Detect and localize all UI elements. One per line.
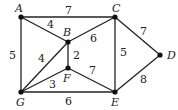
edge-weight-label: 3	[49, 78, 56, 91]
node-g	[18, 89, 23, 94]
node-d	[157, 52, 162, 57]
node-c	[112, 14, 117, 19]
node-f	[65, 65, 70, 70]
node-label: C	[112, 2, 121, 15]
edge-bg	[21, 42, 68, 92]
edge-de	[115, 55, 160, 92]
node-a	[18, 14, 23, 19]
node-b	[65, 39, 70, 44]
node-label: A	[14, 2, 23, 15]
edge-weight-label: 4	[38, 52, 45, 65]
edge-ab	[21, 17, 68, 42]
edge-weight-label: 7	[65, 4, 72, 17]
node-label: B	[62, 26, 71, 39]
edge-weight-label: 7	[140, 25, 147, 38]
edge-weight-label: 4	[47, 18, 54, 31]
edge-weight-label: 2	[73, 49, 80, 62]
node-label: E	[110, 96, 119, 109]
edge-weight-label: 6	[65, 95, 72, 108]
node-label: D	[166, 49, 176, 62]
node-label: F	[62, 72, 71, 85]
node-e	[112, 89, 117, 94]
edge-fg	[21, 68, 68, 92]
edge-weight-label: 7	[89, 64, 96, 77]
edge-weight-label: 6	[90, 32, 97, 45]
weighted-graph: 745624578376 ABCDEFG	[0, 0, 178, 110]
edge-weight-label: 8	[140, 73, 147, 86]
node-label: G	[16, 96, 25, 109]
edge-weight-label: 5	[120, 46, 127, 59]
edge-weight-label: 5	[9, 49, 16, 62]
